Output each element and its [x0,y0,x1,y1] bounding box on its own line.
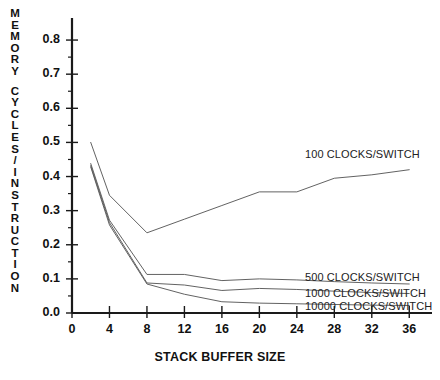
x-axis-tick-label: 4 [95,322,123,336]
chart-container: MEMORYCYCLES/INSTRUCTION 0.00.10.20.30.4… [0,0,440,380]
x-axis-tick-label: 20 [245,322,273,336]
y-axis-tick-label: 0.7 [26,66,60,80]
y-axis-tick-label: 0.0 [26,305,60,319]
x-axis-tick-label: 24 [283,322,311,336]
x-axis-tick-label: 32 [358,322,386,336]
series-label-3: 10000 CLOCKS/SWITCH [305,300,432,312]
y-axis-tick-label: 0.8 [26,32,60,46]
y-axis-tick-label: 0.4 [26,169,60,183]
y-axis-tick-label: 0.3 [26,203,60,217]
x-axis-tick-label: 0 [58,322,86,336]
x-axis-tick-label: 8 [133,322,161,336]
series-label-0: 100 CLOCKS/SWITCH [305,148,420,160]
y-axis-tick-label: 0.2 [26,237,60,251]
series-label-2: 1000 CLOCKS/SWITCH [305,287,426,299]
x-axis-tick-label: 12 [170,322,198,336]
y-axis-tick-label: 0.1 [26,271,60,285]
x-axis-title: STACK BUFFER SIZE [0,350,440,364]
x-axis-tick-label: 28 [320,322,348,336]
y-axis-tick-label: 0.5 [26,134,60,148]
x-axis-tick-label: 16 [208,322,236,336]
series-line-3 [91,167,410,306]
y-axis-tick-label: 0.6 [26,100,60,114]
series-label-1: 500 CLOCKS/SWITCH [305,271,420,283]
x-axis-tick-label: 36 [395,322,423,336]
